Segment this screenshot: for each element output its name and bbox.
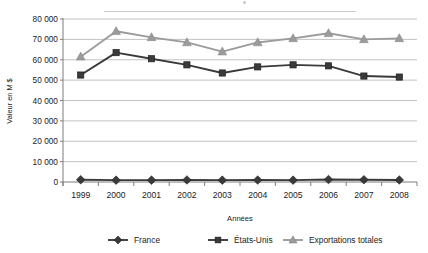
diamond-marker [183,176,192,185]
triangle-marker [76,52,85,60]
diamond-marker [218,176,227,185]
series-line [81,180,400,181]
y-tick-label: 80 000 [33,14,59,24]
diamond-marker [324,175,333,184]
square-marker [78,72,84,78]
cropped-title-rule [104,11,356,12]
square-marker [396,74,402,80]
x-tick-label: 2006 [319,190,338,200]
square-marker [219,70,225,76]
x-tick-label: 2000 [107,190,126,200]
square-marker [255,64,261,70]
x-tick-label: 2003 [213,190,232,200]
legend-item-1[interactable]: France [108,235,160,245]
y-tick-label: 40 000 [33,96,59,106]
x-tick-label: 2002 [177,190,196,200]
square-marker [113,50,119,56]
x-axis-label: Années [227,214,253,223]
diamond-marker [289,176,298,185]
diamond-marker [114,236,122,244]
square-marker [215,237,221,243]
y-tick-label: 0 [53,177,58,187]
y-axis-label: Valeur en M $ [5,78,14,123]
y-axis-tick-labels: 010 00020 00030 00040 00050 00060 00070 … [33,14,63,187]
x-tick-label: 1999 [71,190,90,200]
series-line [81,53,400,77]
scan-speck [243,1,246,4]
square-marker [290,62,296,68]
x-tick-label: 2008 [390,190,409,200]
x-tick-label: 2007 [354,190,373,200]
x-axis-tick-labels: 1999200020012002200320042005200620072008 [71,190,409,200]
y-tick-label: 20 000 [33,136,59,146]
square-marker [148,56,154,62]
legend-label: États-Unis [234,235,273,245]
series-2 [78,50,403,81]
data-series-group [76,27,403,185]
diamond-marker [253,176,262,185]
diamond-marker [395,176,404,185]
legend-label: France [134,235,160,245]
x-tick-label: 2001 [142,190,161,200]
x-tick-label: 2004 [248,190,267,200]
chart-figure: 010 00020 00030 00040 00050 00060 00070 … [0,0,428,253]
y-tick-label: 50 000 [33,75,59,85]
legend-label: Exportations totales [309,235,383,245]
triangle-marker [112,27,121,35]
x-tick-label: 2005 [284,190,303,200]
y-tick-label: 60 000 [33,55,59,65]
diamond-marker [76,175,85,184]
series-line [81,31,400,56]
y-tick-label: 70 000 [33,34,59,44]
diamond-marker [360,175,369,184]
chart-legend: FranceÉtats-UnisExportations totales [108,235,383,245]
square-marker [325,63,331,69]
legend-item-3[interactable]: Exportations totales [283,235,383,245]
line-chart: 010 00020 00030 00040 00050 00060 00070 … [0,0,428,253]
triangle-marker [324,29,333,37]
square-marker [184,62,190,68]
diamond-marker [112,176,121,185]
y-tick-label: 30 000 [33,116,59,126]
y-tick-label: 10 000 [33,157,59,167]
diamond-marker [147,176,156,185]
square-marker [361,73,367,79]
legend-item-2[interactable]: États-Unis [208,235,273,245]
